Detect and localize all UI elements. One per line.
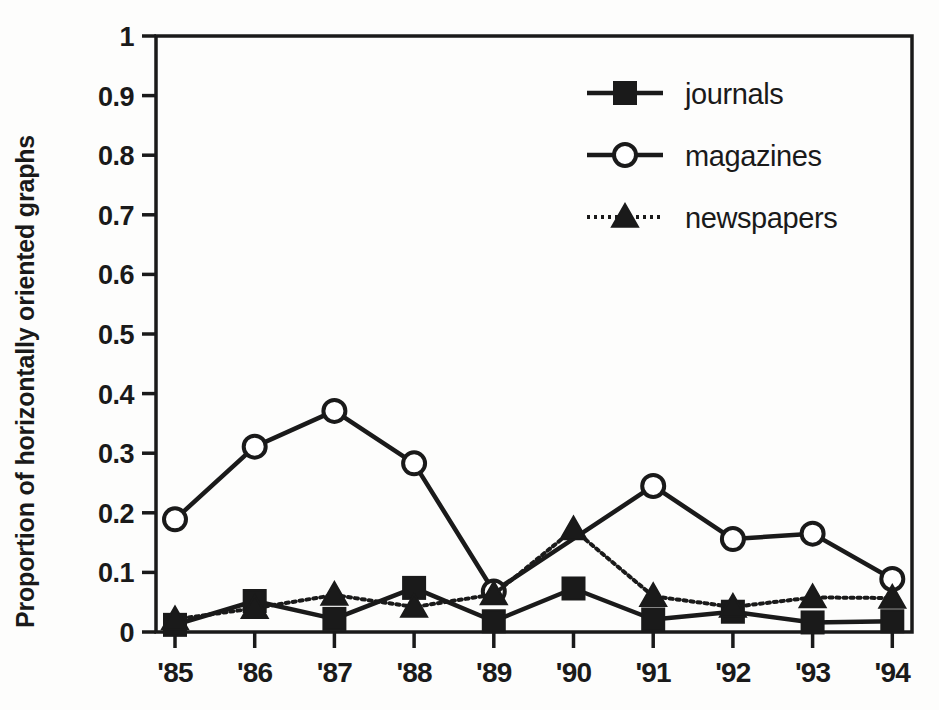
y-tick-label: 1 — [119, 22, 134, 52]
x-tick-label: '91 — [635, 657, 671, 688]
legend-label: magazines — [685, 140, 822, 172]
plot-border — [156, 36, 912, 632]
x-tick-label: '87 — [317, 657, 353, 688]
marker-triangle — [640, 583, 666, 606]
y-tick-label: 0.2 — [98, 499, 134, 529]
legend-label: newspapers — [685, 202, 837, 234]
marker-triangle — [879, 585, 905, 608]
x-tick-label: '88 — [396, 657, 432, 688]
marker-triangle — [321, 582, 347, 605]
chart-container: 00.10.20.30.40.50.60.70.80.91 '85'86'87'… — [0, 0, 939, 710]
x-tick-label: '92 — [715, 657, 751, 688]
legend-item-newspapers[interactable]: newspapers — [587, 202, 837, 234]
data-series-group — [162, 400, 905, 636]
y-axis-title: Proportion of horizontally oriented grap… — [11, 135, 39, 628]
y-tick-label: 0.7 — [98, 201, 134, 231]
y-tick-label: 0.5 — [98, 320, 135, 350]
legend-item-journals[interactable]: journals — [587, 78, 783, 110]
plot-frame — [156, 36, 912, 632]
marker-circle — [244, 436, 266, 458]
marker-square — [642, 608, 664, 630]
x-tick-label: '90 — [556, 657, 592, 688]
x-tick-label: '93 — [795, 657, 831, 688]
y-tick-label: 0.8 — [98, 141, 135, 171]
y-axis: 00.10.20.30.40.50.60.70.80.91 — [98, 22, 156, 648]
x-tick-label: '94 — [875, 657, 912, 688]
y-tick-label: 0 — [119, 618, 134, 648]
marker-square — [483, 610, 505, 632]
line-chart: 00.10.20.30.40.50.60.70.80.91 '85'86'87'… — [0, 0, 939, 710]
marker-circle — [323, 400, 345, 422]
x-axis: '85'86'87'88'89'90'91'92'93'94 — [157, 632, 911, 688]
x-tick-label: '89 — [476, 657, 512, 688]
marker-circle — [642, 475, 664, 497]
x-tick-label: '85 — [157, 657, 193, 688]
marker-square — [881, 610, 903, 632]
y-tick-label: 0.9 — [98, 82, 135, 112]
marker-circle — [403, 452, 425, 474]
y-tick-label: 0.6 — [98, 260, 135, 290]
marker-circle — [614, 144, 636, 166]
x-tick-label: '86 — [237, 657, 273, 688]
series-magazines — [164, 400, 903, 603]
marker-square — [802, 611, 824, 633]
legend-label: journals — [684, 78, 783, 110]
marker-square — [323, 608, 345, 630]
marker-circle — [722, 528, 744, 550]
y-tick-label: 0.4 — [98, 380, 135, 410]
y-tick-label: 0.3 — [98, 439, 135, 469]
series-line — [175, 588, 892, 625]
legend-item-magazines[interactable]: magazines — [587, 140, 822, 172]
marker-square — [614, 82, 636, 104]
marker-triangle — [561, 516, 587, 539]
y-tick-label: 0.1 — [98, 558, 135, 588]
marker-circle — [802, 523, 824, 545]
marker-square — [563, 577, 585, 599]
chart-legend: journalsmagazinesnewspapers — [587, 78, 837, 234]
marker-circle — [164, 508, 186, 530]
